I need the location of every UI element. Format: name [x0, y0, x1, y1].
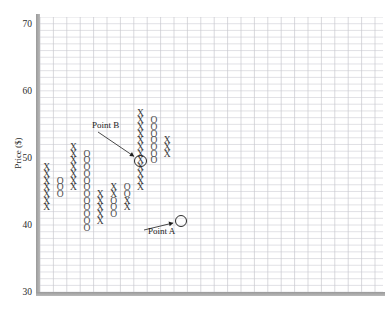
- pf-cell-x: X: [120, 202, 133, 213]
- y-tick-label: 50: [10, 153, 32, 163]
- point-and-figure-chart: Price ($) 7060504030 XXOXOXOXOXXXOXXOXOX…: [0, 0, 390, 309]
- pf-cell-x: X: [40, 202, 53, 213]
- y-tick-label: 40: [10, 220, 32, 230]
- y-tick-label: 30: [10, 287, 32, 297]
- y-tick-label: 60: [10, 86, 32, 96]
- plot-area: XXOXOXOXOXXXOXXOXOXXOXOXXOXXXOXXOXOXXOXO…: [40, 17, 383, 292]
- y-tick-label: 70: [10, 19, 32, 29]
- annotation-label: Point A: [148, 226, 175, 236]
- pf-cell-x: X: [161, 149, 174, 160]
- x-axis-line: [36, 292, 385, 296]
- pf-cell-x: X: [94, 216, 107, 227]
- annotation-label: Point B: [92, 120, 119, 130]
- pf-cell-o: O: [80, 223, 93, 234]
- pf-cell-o: O: [147, 155, 160, 166]
- pf-cell-x: X: [134, 182, 147, 193]
- pf-cell-x: X: [67, 182, 80, 193]
- pf-cell-o: O: [107, 209, 120, 220]
- pf-cell-o: O: [53, 189, 66, 200]
- highlight-ring: [134, 155, 146, 167]
